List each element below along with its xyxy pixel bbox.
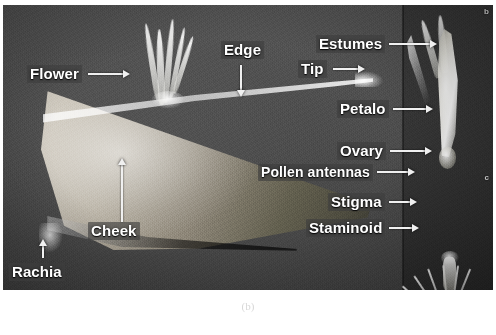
annotation-stigma: Stigma — [328, 193, 417, 211]
arrow-up-icon — [118, 158, 126, 222]
annotation-label-ovary: Ovary — [337, 142, 386, 160]
arrow-up-icon — [39, 239, 47, 258]
staminoid-stalk — [443, 257, 456, 290]
annotation-tip: Tip — [298, 60, 365, 78]
arrow-right-icon — [390, 146, 432, 156]
arrow-down-icon — [237, 65, 245, 97]
annotation-label-edge: Edge — [221, 41, 264, 59]
annotation-label-pollen-antennas: Pollen antennas — [258, 164, 373, 181]
annotated-botanical-figure: b c Flower Edge — [0, 0, 496, 335]
annotation-petalo: Petalo — [337, 100, 433, 118]
annotation-edge: Edge — [221, 41, 264, 59]
panel-marker-b: b — [484, 7, 489, 16]
figure-caption: (b) — [0, 300, 496, 312]
annotation-label-rachia: Rachia — [9, 263, 65, 281]
arrow-right-icon — [389, 223, 419, 233]
arrow-right-icon — [377, 167, 415, 177]
annotation-pollen-antennas: Pollen antennas — [258, 164, 415, 181]
annotation-label-cheek: Cheek — [88, 222, 140, 240]
annotation-estumes: Estumes — [316, 35, 437, 53]
arrow-right-icon — [389, 197, 417, 207]
arrow-right-icon — [389, 39, 437, 49]
arrow-right-icon — [88, 69, 130, 79]
annotation-label-stigma: Stigma — [328, 193, 385, 211]
annotation-label-tip: Tip — [298, 60, 327, 78]
arrow-right-icon — [393, 104, 433, 114]
annotation-staminoid: Staminoid — [306, 219, 419, 237]
panel-marker-c: c — [485, 173, 489, 182]
annotation-ovary: Ovary — [337, 142, 432, 160]
annotation-label-flower: Flower — [27, 65, 82, 83]
annotation-label-petalo: Petalo — [337, 100, 389, 118]
annotation-flower: Flower — [27, 65, 130, 83]
annotation-label-estumes: Estumes — [316, 35, 385, 53]
annotation-label-staminoid: Staminoid — [306, 219, 385, 237]
photograph: b c Flower Edge — [3, 5, 493, 290]
arrow-right-icon — [333, 64, 365, 74]
